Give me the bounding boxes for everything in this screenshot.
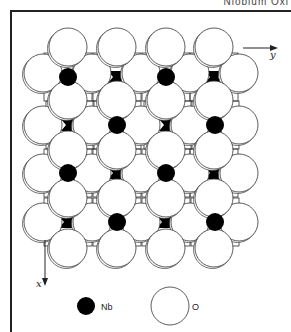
- nb-atom: [206, 213, 224, 231]
- x-axis-label: x: [36, 278, 42, 289]
- nb-legend-symbol: [77, 297, 95, 315]
- o-legend-symbol: [151, 287, 189, 325]
- o-legend-label: O: [192, 302, 199, 312]
- nb-atom: [108, 213, 126, 231]
- y-axis-label: y: [269, 49, 276, 60]
- nb-atom: [59, 164, 77, 182]
- x-axis-arrow: x: [36, 240, 48, 289]
- nb-legend-label: Nb: [101, 302, 113, 312]
- nb-atom: [157, 68, 175, 86]
- crystal-structure-diagram: y x Nb O: [0, 0, 291, 332]
- nb-atom: [157, 164, 175, 182]
- legend: Nb O: [77, 287, 199, 325]
- nb-atom: [206, 116, 224, 134]
- nb-atom: [108, 116, 126, 134]
- nb-atom: [59, 68, 77, 86]
- oxygen-atoms: [23, 28, 259, 269]
